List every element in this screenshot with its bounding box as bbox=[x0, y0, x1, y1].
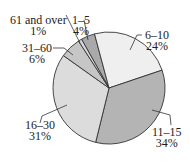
label-pct: 6% bbox=[22, 54, 52, 65]
label-11-15: 11–15 34% bbox=[152, 127, 182, 149]
label-6-10: 6–10 24% bbox=[145, 30, 169, 52]
label-pct: 1% bbox=[10, 26, 67, 37]
label-16-30: 16–30 31% bbox=[25, 120, 55, 142]
label-pct: 31% bbox=[25, 131, 55, 142]
label-pct: 4% bbox=[72, 26, 90, 37]
label-61-and-over: 61 and over 1% bbox=[10, 15, 67, 37]
label-31-60: 31–60 6% bbox=[22, 43, 52, 65]
label-pct: 24% bbox=[145, 41, 169, 52]
label-1-5: 1–5 4% bbox=[72, 15, 90, 37]
label-pct: 34% bbox=[152, 138, 182, 149]
